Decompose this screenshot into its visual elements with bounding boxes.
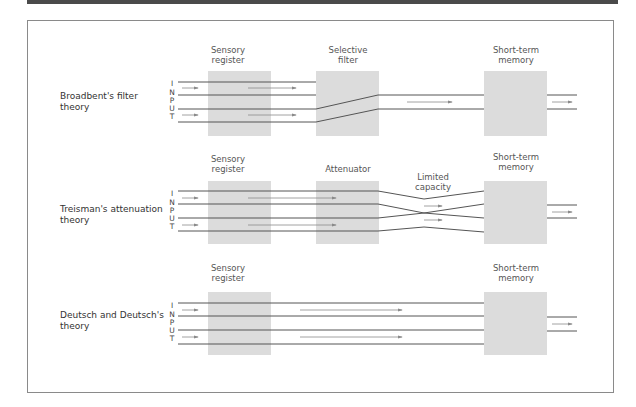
- short-term-memory-box: [484, 181, 547, 244]
- stage-label: filter: [338, 55, 358, 65]
- theory-label: Broadbent's filter: [60, 91, 138, 101]
- theory-label: Treisman's attenuation: [59, 204, 163, 214]
- stage-label: Selective: [329, 45, 368, 55]
- theory-label-cont: theory: [60, 102, 90, 112]
- stage-label: register: [212, 273, 245, 283]
- stage-label: Sensory: [211, 263, 245, 273]
- stage-label: Sensory: [211, 154, 245, 164]
- attention-diagram: Broadbent's filter theory Sensory regist…: [0, 0, 636, 407]
- sensory-register-box: [208, 181, 271, 244]
- stage-label: Short-term: [493, 152, 539, 162]
- row-deutsch: Deutsch and Deutsch's theory Sensory reg…: [60, 263, 577, 355]
- stage-label: register: [212, 55, 245, 65]
- input-letters: I N P U T: [169, 301, 175, 343]
- svg-text:I: I: [171, 189, 173, 198]
- theory-label-cont: theory: [60, 321, 90, 331]
- stage-label: Sensory: [211, 45, 245, 55]
- row-treisman: Treisman's attenuation theory Sensory re…: [59, 152, 577, 244]
- svg-text:I: I: [171, 301, 173, 310]
- stage-label: capacity: [415, 182, 451, 192]
- theory-label-cont: theory: [60, 215, 90, 225]
- short-term-memory-box: [484, 292, 547, 355]
- svg-text:T: T: [169, 334, 175, 343]
- input-letters: I N P U T: [169, 79, 175, 121]
- svg-text:I: I: [171, 79, 173, 88]
- sensory-register-box: [208, 292, 271, 355]
- stage-label: memory: [498, 55, 534, 65]
- svg-text:T: T: [169, 222, 175, 231]
- svg-text:T: T: [169, 112, 175, 121]
- short-term-memory-box: [484, 71, 547, 136]
- stage-label: Short-term: [493, 263, 539, 273]
- sensory-register-box: [208, 71, 271, 136]
- stage-label: Limited: [417, 172, 449, 182]
- stage-label: memory: [498, 273, 534, 283]
- stage-label: register: [212, 164, 245, 174]
- theory-label: Deutsch and Deutsch's: [60, 310, 164, 320]
- stage-label: memory: [498, 162, 534, 172]
- attenuator-box: [316, 181, 379, 244]
- stage-label: Short-term: [493, 45, 539, 55]
- input-letters: I N P U T: [169, 189, 175, 231]
- selective-filter-box: [316, 71, 379, 136]
- stage-label: Attenuator: [325, 164, 371, 174]
- row-broadbent: Broadbent's filter theory Sensory regist…: [60, 45, 577, 136]
